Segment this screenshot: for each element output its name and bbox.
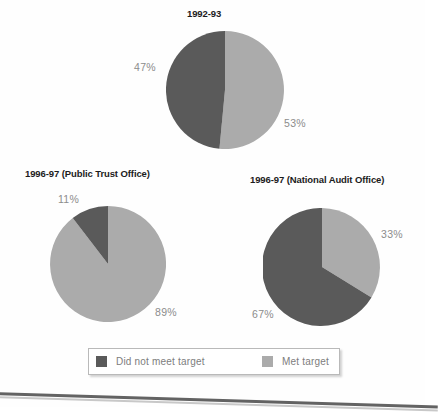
pie-label-did-not-meet-target-1992-93: 47% [134, 61, 156, 73]
legend-swatch-met-target [262, 356, 273, 367]
legend-item-did-not-meet-target: Did not meet target [96, 349, 205, 374]
pie-svg-1996-97-public-trust-office [50, 206, 166, 322]
pie-label-met-target-1996-97-national-audit-office: 33% [381, 228, 403, 240]
chart-legend: Did not meet target Met target [88, 348, 340, 375]
pie-svg-1992-93 [166, 31, 284, 149]
pie-slice-met-target [50, 206, 166, 322]
legend-swatch-did-not-meet-target [96, 356, 107, 367]
legend-item-met-target: Met target [262, 349, 329, 374]
pie-label-met-target-1996-97-public-trust-office: 89% [155, 306, 177, 318]
pie-graphic-1992-93 [166, 31, 284, 149]
pie-label-did-not-meet-target-1996-97-national-audit-office: 67% [252, 308, 274, 320]
legend-label-met-target: Met target [282, 356, 329, 367]
pie-graphic-1996-97-national-audit-office [263, 208, 381, 326]
page-edge-line [0, 392, 438, 409]
pie-graphic-1996-97-public-trust-office [50, 206, 166, 322]
pie-slice-did-not-meet-target [166, 31, 225, 149]
chart-title-1996-97-national-audit-office: 1996-97 (National Audit Office) [250, 174, 384, 185]
pie-slice-met-target [219, 31, 284, 149]
chart-title-1996-97-public-trust-office: 1996-97 (Public Trust Office) [25, 168, 150, 179]
pie-label-met-target-1992-93: 53% [284, 117, 306, 129]
pie-svg-1996-97-national-audit-office [263, 208, 381, 326]
legend-label-did-not-meet-target: Did not meet target [116, 356, 205, 367]
pie-label-did-not-meet-target-1996-97-public-trust-office: 11% [58, 193, 79, 205]
chart-title-1992-93: 1992-93 [187, 8, 221, 19]
